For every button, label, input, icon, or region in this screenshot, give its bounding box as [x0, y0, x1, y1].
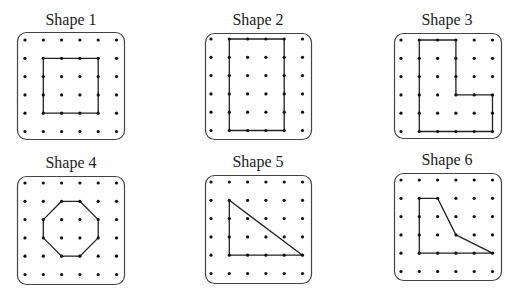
peg-dot [491, 178, 494, 181]
peg-dot [454, 233, 457, 236]
peg-dot [491, 270, 494, 273]
shape-4-title: Shape 4 [1, 154, 141, 172]
shape-5-title: Shape 5 [188, 153, 328, 171]
peg-dot [473, 215, 476, 218]
peg-dot [418, 197, 421, 200]
peg-dot [418, 270, 421, 273]
peg-dot [454, 178, 457, 181]
peg-dot [454, 270, 457, 273]
peg-dot [491, 215, 494, 218]
peg-dot [436, 233, 439, 236]
peg-dot [436, 252, 439, 255]
peg-dot [473, 178, 476, 181]
peg-dot [436, 215, 439, 218]
peg-dot [473, 233, 476, 236]
peg-dot [418, 215, 421, 218]
peg-dot [491, 252, 494, 255]
peg-dot [454, 252, 457, 255]
peg-dot [473, 252, 476, 255]
shape-3-title: Shape 3 [377, 11, 517, 29]
peg-dot [454, 215, 457, 218]
peg-dot [399, 252, 402, 255]
peg-dot [436, 270, 439, 273]
shape-outline [419, 198, 492, 253]
geoboard-6 [0, 0, 520, 295]
peg-dot [491, 197, 494, 200]
peg-dot [399, 197, 402, 200]
shape-6-title: Shape 6 [377, 151, 517, 169]
peg-dot [491, 233, 494, 236]
peg-dot [399, 178, 402, 181]
shape-1-title: Shape 1 [1, 11, 141, 29]
peg-dot [436, 197, 439, 200]
peg-dot [399, 215, 402, 218]
peg-dot [418, 252, 421, 255]
peg-dot [454, 197, 457, 200]
shape-2-title: Shape 2 [188, 11, 328, 29]
peg-dot [418, 178, 421, 181]
peg-dot [418, 233, 421, 236]
board-frame [395, 174, 502, 281]
peg-dot [436, 178, 439, 181]
peg-dot [399, 233, 402, 236]
peg-dot [473, 270, 476, 273]
peg-dot [473, 197, 476, 200]
peg-dot [399, 270, 402, 273]
